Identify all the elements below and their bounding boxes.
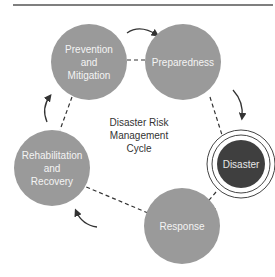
node-label-line: Response xyxy=(159,220,204,233)
node-rehabilitation-and-recovery: Rehabilitation and Recovery xyxy=(14,130,90,206)
node-label-line: Mitigation xyxy=(65,69,113,82)
node-response: Response xyxy=(144,188,220,264)
diagram-title: Disaster Risk Management Cycle xyxy=(97,116,181,155)
node-prevention-and-mitigation: Prevention and Mitigation xyxy=(51,24,127,100)
node-label-line: Prevention xyxy=(65,43,113,56)
node-label-line: Rehabilitation xyxy=(22,149,83,162)
node-label-line: Disaster xyxy=(223,158,260,171)
title-line: Cycle xyxy=(97,142,181,155)
node-disaster: Disaster xyxy=(217,140,265,188)
title-line: Disaster Risk xyxy=(97,116,181,129)
title-line: Management xyxy=(97,129,181,142)
node-preparedness: Preparedness xyxy=(145,24,221,100)
node-label-line: Recovery xyxy=(22,175,83,188)
node-label-line: Preparedness xyxy=(152,56,214,69)
node-label-line: and xyxy=(22,162,83,175)
node-label-line: and xyxy=(65,56,113,69)
